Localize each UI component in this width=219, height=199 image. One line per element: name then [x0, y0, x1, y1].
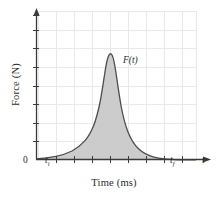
tf-sub: f [173, 160, 175, 167]
curve-label-ft: F(t) [123, 55, 138, 65]
tick-label-tf: tf [170, 155, 174, 167]
x-axis-label: Time (ms) [34, 177, 194, 188]
origin-label: 0 [23, 155, 28, 165]
chart-canvas [0, 0, 219, 199]
y-axis-label: Force (N) [10, 39, 21, 131]
ti-sub: i [48, 160, 50, 167]
impulse-force-time-figure: Force (N) Time (ms) 0 ti tf t F(t) [0, 0, 219, 199]
x-axis-variable-label: t [202, 155, 205, 165]
tick-label-ti: ti [45, 155, 49, 167]
